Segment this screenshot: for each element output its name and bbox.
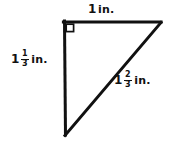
label-left-whole: 1 [11, 53, 20, 65]
label-hyp-numerator: 2 [124, 71, 132, 80]
label-left-numerator: 1 [21, 50, 29, 59]
label-hyp-whole: 1 [114, 74, 123, 86]
label-top-whole: 1 [88, 3, 97, 15]
label-left-unit: in. [31, 54, 47, 65]
label-hyp-fraction: 2 3 [124, 71, 132, 89]
triangle-drawing [0, 0, 179, 147]
label-hyp-unit: in. [134, 75, 150, 86]
triangle-left-leg [65, 21, 66, 135]
label-top-unit: in. [98, 4, 114, 15]
dimension-label-left: 1 1 3 in. [11, 50, 48, 68]
dimension-label-hypotenuse: 1 2 3 in. [114, 71, 151, 89]
dimension-label-top: 1 in. [88, 3, 114, 15]
right-angle-marker-icon [66, 24, 73, 31]
label-left-denominator: 3 [21, 60, 29, 69]
label-left-fraction: 1 3 [21, 50, 29, 68]
triangle-figure: 1 in. 1 1 3 in. 1 2 3 in. [0, 0, 179, 147]
label-hyp-denominator: 3 [124, 81, 132, 90]
